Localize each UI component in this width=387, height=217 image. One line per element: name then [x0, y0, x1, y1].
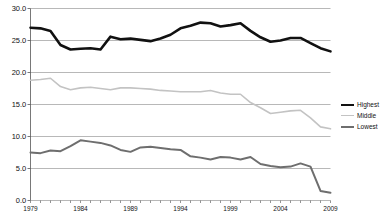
x-axis-tick-label: 1979 [18, 205, 44, 213]
y-axis-tick-label: 20.0 [0, 69, 26, 77]
line-chart: 0.05.010.015.020.025.030.0 1979198419891… [0, 0, 387, 217]
legend-item-highest[interactable]: Highest [341, 99, 379, 110]
chart-legend: HighestMiddleLowest [341, 99, 379, 132]
y-axis-tick-label: 10.0 [0, 133, 26, 141]
x-axis-tick-label: 1984 [68, 205, 94, 213]
x-axis-tick-label: 1994 [168, 205, 194, 213]
legend-item-lowest[interactable]: Lowest [341, 121, 379, 132]
y-axis-tick-label: 25.0 [0, 37, 26, 45]
x-axis-tick-label: 1999 [218, 205, 244, 213]
y-axis-tick-label: 0.0 [0, 197, 26, 205]
x-axis-tick-label: 1989 [118, 205, 144, 213]
legend-swatch-middle-icon [341, 115, 354, 116]
legend-item-middle[interactable]: Middle [341, 110, 379, 121]
legend-swatch-highest-icon [341, 104, 354, 106]
series-line-middle [31, 78, 331, 129]
y-axis-tick-label: 15.0 [0, 101, 26, 109]
legend-label: Middle [357, 112, 376, 120]
y-axis-tick-label: 30.0 [0, 5, 26, 13]
series-line-highest [31, 23, 331, 52]
legend-label: Lowest [357, 123, 378, 131]
x-axis-tick-label: 2004 [268, 205, 294, 213]
series-line-lowest [31, 140, 331, 192]
chart-plot-area [0, 0, 387, 217]
y-axis-tick-label: 5.0 [0, 165, 26, 173]
legend-label: Highest [357, 101, 379, 109]
x-axis-tick-label: 2009 [318, 205, 344, 213]
legend-swatch-lowest-icon [341, 126, 354, 128]
